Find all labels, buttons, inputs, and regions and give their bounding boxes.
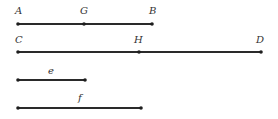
label-h: H — [133, 34, 143, 45]
segment-ab: A G B — [14, 5, 156, 26]
point-b — [150, 22, 154, 26]
label-b: B — [148, 5, 156, 16]
segment-f: f — [16, 92, 143, 110]
geometry-diagram: A G B C H D e f — [0, 0, 278, 119]
label-a: A — [14, 5, 22, 16]
label-e: e — [48, 65, 54, 76]
segment-e: e — [16, 65, 87, 82]
point-f-start — [16, 106, 20, 110]
point-h — [137, 50, 141, 54]
point-f-end — [139, 106, 143, 110]
label-c: C — [15, 34, 23, 45]
point-g — [82, 22, 86, 26]
segment-cd: C H D — [15, 34, 264, 54]
point-d — [259, 50, 263, 54]
point-c — [16, 50, 20, 54]
label-g: G — [80, 5, 88, 16]
label-f: f — [77, 92, 84, 103]
point-a — [16, 22, 20, 26]
label-d: D — [255, 34, 264, 45]
point-e-start — [16, 78, 20, 82]
point-e-end — [83, 78, 87, 82]
